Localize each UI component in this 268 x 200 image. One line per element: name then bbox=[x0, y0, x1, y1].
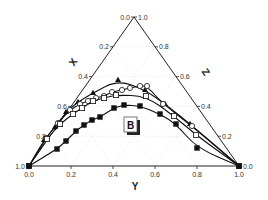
marker-square-filled bbox=[137, 103, 142, 108]
marker-square-open bbox=[193, 132, 198, 137]
ternary-chart: 0.00.20.40.60.81.00.00.20.40.60.81.01.00… bbox=[0, 0, 268, 200]
marker-square-filled bbox=[73, 128, 78, 133]
tick-label: 0.4 bbox=[108, 171, 118, 178]
series-filled-square bbox=[26, 102, 241, 168]
tick-label: 0.0 bbox=[120, 14, 130, 21]
tick-label: 1.0 bbox=[138, 14, 148, 21]
marker-square-filled bbox=[173, 121, 178, 126]
tick-label: 0.2 bbox=[222, 133, 232, 140]
marker-square-open bbox=[44, 136, 49, 141]
marker-square-filled bbox=[81, 122, 86, 127]
marker-square-open bbox=[143, 93, 148, 98]
marker-square-filled bbox=[194, 145, 199, 150]
marker-square-open bbox=[70, 111, 75, 116]
tick-label: 0.2 bbox=[66, 171, 76, 178]
panel-label-box: B bbox=[124, 117, 140, 135]
axis-title-right: Z bbox=[200, 66, 213, 77]
marker-square-filled bbox=[97, 114, 102, 119]
marker-circle bbox=[119, 87, 124, 92]
marker-circle bbox=[160, 101, 165, 106]
axis-title-left: X bbox=[67, 56, 80, 68]
marker-square-filled bbox=[54, 146, 59, 151]
tick-label: 1.0 bbox=[234, 171, 244, 178]
tick-label: 0.6 bbox=[57, 103, 67, 110]
marker-square-filled bbox=[89, 117, 94, 122]
marker-circle bbox=[144, 83, 149, 88]
marker-triangle bbox=[115, 77, 121, 82]
marker-square-open bbox=[79, 105, 84, 110]
marker-circle bbox=[127, 85, 132, 90]
marker-square-open bbox=[90, 98, 95, 103]
marker-square-filled bbox=[63, 138, 68, 143]
tick-label: 0.0 bbox=[243, 163, 253, 170]
marker-square-filled bbox=[157, 111, 162, 116]
tick-label: 0.6 bbox=[150, 171, 160, 178]
marker-square-open bbox=[171, 113, 176, 118]
marker-circle bbox=[137, 83, 142, 88]
tick-label: 0.4 bbox=[201, 103, 211, 110]
marker-square-open bbox=[113, 92, 118, 97]
marker-square-open bbox=[57, 121, 62, 126]
tick-label: 0.8 bbox=[192, 171, 202, 178]
tick-label: 0.4 bbox=[78, 73, 88, 80]
marker-square-filled bbox=[26, 163, 31, 168]
marker-circle bbox=[189, 123, 194, 128]
axis-title-bottom: Y bbox=[132, 181, 139, 192]
marker-square-filled bbox=[236, 163, 241, 168]
marker-square-filled bbox=[121, 102, 126, 107]
tick-label: 0.2 bbox=[99, 43, 109, 50]
marker-square-filled bbox=[111, 105, 116, 110]
tick-label: 0.8 bbox=[159, 43, 169, 50]
panel-label: B bbox=[127, 120, 134, 131]
marker-square-open bbox=[101, 95, 106, 100]
tick-label: 0.6 bbox=[180, 73, 190, 80]
tick-label: 0.0 bbox=[24, 171, 34, 178]
tick-label: 1.0 bbox=[15, 163, 25, 170]
